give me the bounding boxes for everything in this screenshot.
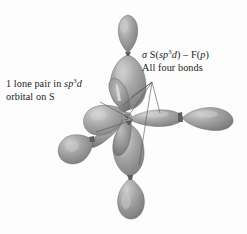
orbital-lower-left-small-lobe	[58, 135, 92, 164]
orbital-right-small-lobe	[182, 107, 233, 130]
lone-pair-line2: orbital on S	[6, 91, 82, 104]
sigma-bond-s: S(	[147, 49, 159, 60]
lone-pair-line1: 1 lone pair in sp3d	[6, 78, 82, 91]
lone-pair-line1-prefix: 1 lone pair in	[6, 78, 64, 89]
sigma-bond-annotation: σ S(sp3d) – F(p) All four bonds	[142, 49, 209, 74]
lone-pair-line1-italic2: d	[77, 78, 82, 89]
orbital-diagram-figure: S 1 lone pair in sp3d orbital on S σ S(s	[0, 0, 247, 234]
sigma-bond-line2: All four bonds	[142, 62, 209, 75]
center-atom-label: S	[124, 113, 128, 122]
orbital-right-large-lobe	[130, 110, 183, 127]
sigma-bond-italic: sp	[159, 49, 168, 60]
orbital-up-small-lobe	[118, 15, 137, 53]
sigma-bond-end: )	[205, 49, 209, 60]
orbital-illustration: S	[0, 0, 247, 234]
lone-pair-line1-italic: sp	[64, 78, 73, 89]
sigma-bond-mid: ) – F(	[177, 49, 200, 60]
orbital-down-small-lobe	[118, 178, 145, 219]
sigma-bond-line1: σ S(sp3d) – F(p)	[142, 49, 209, 62]
lone-pair-annotation: 1 lone pair in sp3d orbital on S	[6, 78, 82, 103]
